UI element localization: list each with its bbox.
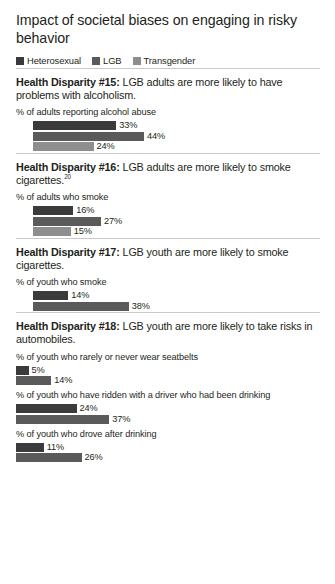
bar-row: 5% [16, 366, 321, 375]
section-heading: Health Disparity #18: LGB youth are more… [16, 320, 321, 346]
section-heading: Health Disparity #15: LGB adults are mor… [16, 76, 321, 102]
bar-group-label: % of youth who smoke [16, 277, 321, 288]
bar-value-label: 14% [71, 291, 89, 300]
bar-row: 11% [16, 443, 321, 452]
section-divider [16, 312, 320, 313]
bar-lgb [33, 132, 144, 141]
section-divider [16, 153, 320, 154]
legend-item-label: LGB [103, 56, 121, 66]
disparity-section: Health Disparity #18: LGB youth are more… [16, 312, 321, 462]
bar-group: % of youth who rarely or never wear seat… [16, 352, 321, 386]
bar-value-label: 38% [132, 302, 150, 311]
page-title: Impact of societal biases on engaging in… [16, 12, 316, 47]
section-heading-label: Health Disparity #17: [16, 246, 120, 258]
section-heading: Health Disparity #16: LGB adults are mor… [16, 161, 321, 187]
bar-row: 24% [33, 142, 321, 151]
chart-legend: HeterosexualLGBTransgender [16, 56, 321, 66]
chart-page: Impact of societal biases on engaging in… [0, 0, 335, 584]
section-heading-label: Health Disparity #16: [16, 161, 120, 173]
bars-container: 11%26% [16, 443, 321, 463]
bar-group-label: % of youth who rarely or never wear seat… [16, 352, 321, 363]
section-divider [16, 68, 320, 69]
legend-swatch-icon [92, 57, 100, 65]
bar-value-label: 24% [80, 404, 98, 413]
bar-value-label: 33% [119, 121, 137, 130]
bar-group-label: % of youth who have ridden with a driver… [16, 390, 321, 401]
legend-item: Heterosexual [16, 56, 81, 66]
legend-item-label: Transgender [144, 56, 196, 66]
bar-value-label: 16% [76, 206, 94, 215]
bar-group-label: % of adults who smoke [16, 192, 321, 203]
bar-group: % of youth who smoke14%38% [16, 277, 321, 311]
bars-container: 33%44%24% [16, 121, 321, 151]
bar-heterosexual [16, 443, 44, 452]
section-divider [16, 238, 320, 239]
bar-row: 33% [33, 121, 321, 130]
bar-transgender [33, 142, 94, 151]
bar-row: 37% [16, 415, 321, 424]
bars-container: 14%38% [16, 291, 321, 311]
footnote-marker: 20 [64, 174, 71, 181]
bar-heterosexual [16, 404, 77, 413]
section-heading: Health Disparity #17: LGB youth are more… [16, 246, 321, 272]
bars-container: 5%14% [16, 366, 321, 386]
bar-value-label: 27% [104, 217, 122, 226]
bar-lgb [16, 376, 51, 385]
bar-row: 15% [33, 227, 321, 236]
bar-value-label: 15% [74, 227, 92, 236]
disparity-section: Health Disparity #16: LGB adults are mor… [16, 153, 321, 236]
bar-group: % of adults reporting alcohol abuse33%44… [16, 107, 321, 151]
bar-value-label: 14% [54, 376, 72, 385]
bar-row: 38% [33, 302, 321, 311]
legend-swatch-icon [133, 57, 141, 65]
bar-row: 44% [33, 132, 321, 141]
bar-group: % of adults who smoke16%27%15% [16, 192, 321, 236]
bar-row: 14% [16, 376, 321, 385]
bar-heterosexual [16, 366, 29, 375]
bar-value-label: 24% [97, 142, 115, 151]
bars-container: 16%27%15% [16, 206, 321, 236]
bar-value-label: 5% [32, 366, 45, 375]
legend-item: LGB [92, 56, 121, 66]
legend-swatch-icon [16, 57, 24, 65]
bar-row: 27% [33, 217, 321, 226]
bar-value-label: 37% [112, 415, 130, 424]
bar-heterosexual [33, 291, 68, 300]
bar-transgender [33, 227, 71, 236]
bar-value-label: 11% [47, 443, 64, 452]
bar-lgb [33, 217, 101, 226]
disparity-section: Health Disparity #17: LGB youth are more… [16, 238, 321, 311]
bars-container: 24%37% [16, 404, 321, 424]
bar-row: 16% [33, 206, 321, 215]
bar-group-label: % of youth who drove after drinking [16, 429, 321, 440]
bar-group-label: % of adults reporting alcohol abuse [16, 107, 321, 118]
bar-lgb [16, 415, 109, 424]
bar-row: 24% [16, 404, 321, 413]
bar-group: % of youth who have ridden with a driver… [16, 390, 321, 424]
bar-lgb [33, 302, 129, 311]
section-heading-label: Health Disparity #18: [16, 320, 120, 332]
disparity-section: Health Disparity #15: LGB adults are mor… [16, 68, 321, 151]
legend-item-label: Heterosexual [27, 56, 81, 66]
bar-heterosexual [33, 206, 73, 215]
bar-lgb [16, 453, 82, 462]
bar-row: 14% [33, 291, 321, 300]
section-heading-label: Health Disparity #15: [16, 76, 120, 88]
bar-heterosexual [33, 121, 116, 130]
sections-container: Health Disparity #15: LGB adults are mor… [16, 68, 321, 462]
bar-value-label: 44% [147, 132, 165, 141]
bar-group: % of youth who drove after drinking11%26… [16, 429, 321, 463]
bar-value-label: 26% [85, 453, 103, 462]
bar-row: 26% [16, 453, 321, 462]
legend-item: Transgender [133, 56, 196, 66]
